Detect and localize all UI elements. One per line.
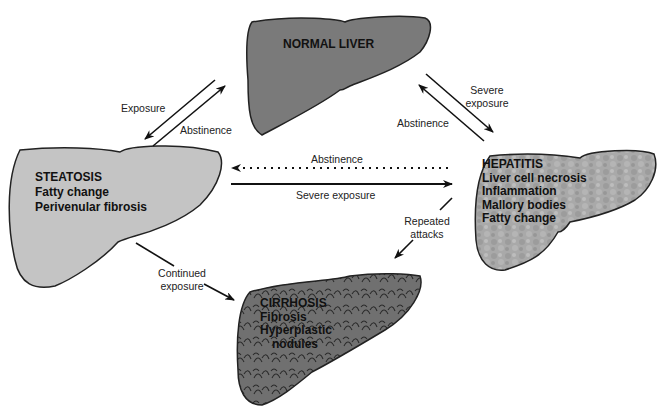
edge-label-line: Severe [462, 84, 512, 97]
edge-label-line: Repeated [402, 215, 452, 228]
steatosis-line: Fatty change [35, 185, 147, 200]
edge-label-abstinence-right: Abstinence [397, 117, 449, 130]
cirrhosis-label: CIRRHOSIS Fibrosis Hyperplastic nodules [260, 297, 332, 351]
edge-label-continued-exposure: Continued exposure [152, 267, 212, 293]
arrow-hepatitis-to-cirrhosis [395, 240, 413, 258]
edge-label-severe-exposure-right: Severe exposure [462, 84, 512, 110]
edge-label-abstinence-left: Abstinence [180, 124, 232, 137]
steatosis-title: STEATOSIS [35, 170, 147, 185]
hepatitis-title: HEPATITIS [482, 158, 587, 172]
edge-label-line: Continued [152, 267, 212, 280]
hepatitis-line: Inflammation [482, 185, 587, 199]
edge-label-line: attacks [402, 228, 452, 241]
cirrhosis-line: Hyperplastic [260, 324, 332, 338]
arrow-hepatitis-line [440, 198, 452, 210]
cirrhosis-title: CIRRHOSIS [260, 297, 332, 311]
edge-label-line: exposure [462, 97, 512, 110]
edge-label-abstinence-center: Abstinence [311, 153, 363, 166]
steatosis-label: STEATOSIS Fatty change Perivenular fibro… [35, 170, 147, 215]
normal-liver-label: NORMAL LIVER [283, 37, 374, 52]
hepatitis-line: Fatty change [482, 212, 587, 226]
arrow-steatosis-line [136, 243, 174, 266]
edge-label-severe-exposure-center: Severe exposure [296, 189, 375, 202]
hepatitis-line: Mallory bodies [482, 199, 587, 213]
edge-label-line: exposure [152, 280, 212, 293]
steatosis-line: Perivenular fibrosis [35, 200, 147, 215]
arrow-steatosis-to-normal [153, 86, 225, 146]
hepatitis-line: Liver cell necrosis [482, 172, 587, 186]
cirrhosis-line: nodules [260, 338, 332, 352]
cirrhosis-line: Fibrosis [260, 311, 332, 325]
edge-label-exposure: Exposure [121, 102, 165, 115]
hepatitis-label: HEPATITIS Liver cell necrosis Inflammati… [482, 158, 587, 226]
edge-label-repeated-attacks: Repeated attacks [402, 215, 452, 241]
